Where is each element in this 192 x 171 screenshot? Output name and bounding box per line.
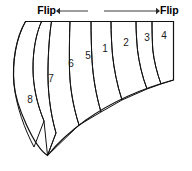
- flip-annotation-right: Flip: [104, 4, 179, 16]
- band-6-shape: [48, 22, 80, 156]
- band-label-3: 3: [144, 32, 150, 43]
- band-2-shape: [111, 22, 147, 101]
- flip-annotation-left: Flip: [37, 4, 88, 16]
- band-label-6: 6: [68, 58, 74, 69]
- band-label-4: 4: [161, 30, 167, 41]
- band-label-1: 1: [102, 43, 108, 54]
- band-label-5: 5: [85, 50, 91, 61]
- figure-canvas: 8 7 6 5 1 2 3 4 Flip Flip: [0, 0, 192, 171]
- band-label-2: 2: [123, 37, 129, 48]
- band-label-7: 7: [48, 73, 54, 84]
- band-5-shape: [69, 22, 101, 126]
- band-7-shape: [33, 22, 56, 156]
- flip-label-left: Flip: [37, 4, 56, 16]
- band-1-shape: [91, 22, 122, 113]
- arrow-left-icon: [56, 8, 60, 14]
- fan-diagram: 8 7 6 5 1 2 3 4 Flip Flip: [0, 0, 192, 171]
- flip-label-right: Flip: [160, 4, 179, 16]
- band-label-8: 8: [27, 94, 33, 105]
